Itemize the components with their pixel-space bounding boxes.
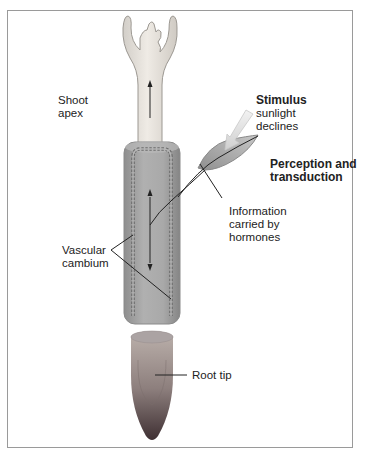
label-stimulus: Stimulus sunlight declines bbox=[256, 94, 307, 133]
shoot-apex bbox=[123, 16, 177, 150]
stem bbox=[124, 141, 240, 324]
root-tip bbox=[131, 331, 173, 440]
label-shoot-apex: Shoot apex bbox=[58, 94, 88, 120]
label-vascular-cambium: Vascular cambium bbox=[62, 244, 109, 270]
label-information: Information carried by hormones bbox=[229, 205, 287, 244]
leaf bbox=[178, 135, 258, 197]
label-perception: Perception and transduction bbox=[270, 158, 357, 184]
label-root-tip: Root tip bbox=[192, 369, 232, 382]
plant-diagram bbox=[0, 0, 367, 457]
